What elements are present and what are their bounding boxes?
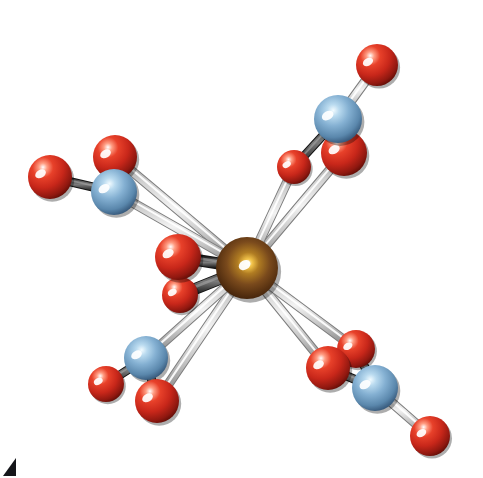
atom-sphere xyxy=(356,44,398,86)
atom-sphere xyxy=(155,234,201,280)
atom-sphere xyxy=(314,95,362,143)
molecule-diagram xyxy=(0,0,483,478)
atom-sphere xyxy=(352,365,398,411)
figure-label-fragment xyxy=(3,458,16,476)
atom-layer xyxy=(28,44,452,458)
atom-sphere xyxy=(135,379,179,423)
atom-sphere xyxy=(410,416,450,456)
atom-sphere xyxy=(277,150,311,184)
atom-o-O_tl_a[interactable] xyxy=(28,155,74,202)
atom-o-O_bl_b[interactable] xyxy=(135,379,181,426)
atom-sphere xyxy=(91,169,137,215)
atom-sphere xyxy=(28,155,72,199)
figure-canvas xyxy=(0,0,483,478)
atom-sphere xyxy=(306,346,350,390)
atom-sphere xyxy=(88,366,124,402)
atom-sphere xyxy=(124,336,168,380)
atom-n-N_br[interactable] xyxy=(352,365,400,414)
atom-o-O_br_c[interactable] xyxy=(410,416,452,458)
